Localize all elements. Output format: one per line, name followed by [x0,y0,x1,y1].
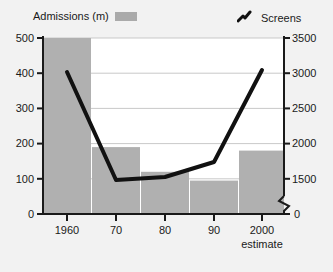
x-tick-70: 70 [110,224,122,236]
bar-1960 [43,38,91,214]
left-tick-500: 500 [16,32,34,44]
right-tick-2000: 2000 [292,137,316,149]
chart-figure: Admissions (m) Screens [0,0,333,272]
right-tick-0: 0 [294,208,300,220]
right-tick-3500: 3500 [292,32,316,44]
x-axis-ticks [67,214,262,221]
x-axis-note: estimate [241,238,283,250]
right-tick-3000: 3000 [292,67,316,79]
left-tick-200: 200 [16,137,34,149]
bar-90 [190,181,238,214]
right-tick-1500: 1500 [292,173,316,185]
x-tick-80: 80 [159,224,171,236]
x-tick-2000: 2000 [250,224,274,236]
bar-2000 [239,151,284,214]
x-axis-labels: 1960 70 80 90 2000 estimate [55,224,283,250]
right-tick-2500: 2500 [292,102,316,114]
left-tick-300: 300 [16,102,34,114]
left-axis-labels: 500 400 300 200 100 0 [16,32,34,220]
x-tick-1960: 1960 [55,224,79,236]
left-tick-400: 400 [16,67,34,79]
right-axis-labels: 3500 3000 2500 2000 1500 0 [292,32,316,220]
plot-area: 500 400 300 200 100 0 3500 3000 2500 200… [0,0,333,272]
x-tick-90: 90 [208,224,220,236]
left-tick-0: 0 [28,208,34,220]
left-tick-100: 100 [16,173,34,185]
